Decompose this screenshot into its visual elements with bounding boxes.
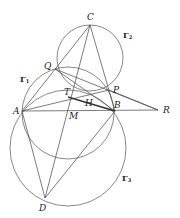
circle-gamma3 xyxy=(10,90,126,206)
label-m: M xyxy=(68,111,79,121)
label-d: D xyxy=(38,203,46,213)
label-gamma3: Γ3 xyxy=(122,173,132,183)
label-h: H xyxy=(84,98,93,108)
line-c-d xyxy=(45,25,90,198)
line-a-r xyxy=(22,110,158,111)
label-gamma2: Γ2 xyxy=(123,30,133,40)
label-p: P xyxy=(112,85,120,95)
line-a-d xyxy=(22,111,45,198)
label-t: T xyxy=(64,87,71,97)
circle-gamma1 xyxy=(22,67,114,159)
line-c-b xyxy=(90,25,115,111)
line-d-b xyxy=(45,111,115,198)
label-r: R xyxy=(162,105,170,115)
label-gamma1: Γ1 xyxy=(20,74,29,84)
label-b: B xyxy=(113,100,121,110)
line-a-c xyxy=(22,25,90,111)
label-q: Q xyxy=(44,61,52,71)
geometry-diagram: C Q P T H A B M R D Γ2 Γ1 Γ3 xyxy=(0,0,180,218)
label-a: A xyxy=(12,106,20,116)
label-c: C xyxy=(87,12,94,22)
circle-gamma2 xyxy=(57,25,123,91)
